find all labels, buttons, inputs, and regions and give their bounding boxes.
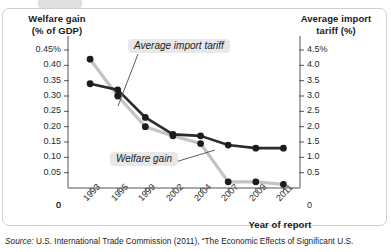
- plot-area: [0, 0, 391, 252]
- annotation-welfare-gain: Welfare gain: [110, 152, 178, 166]
- source-text: U.S. International Trade Commission (201…: [36, 236, 353, 246]
- source-prefix: Source:: [5, 236, 34, 246]
- annotation-average-import-tariff: Average import tariff: [128, 39, 230, 53]
- chart-figure: Welfare gain (% of GDP) Average import t…: [0, 0, 391, 252]
- source-note: Source: U.S. International Trade Commiss…: [5, 236, 387, 247]
